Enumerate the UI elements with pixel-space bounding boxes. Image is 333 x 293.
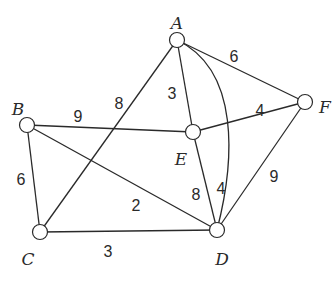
node-label-a: A <box>169 13 183 33</box>
node-f <box>298 95 313 110</box>
edge-b-c <box>27 125 40 232</box>
node-label-b: B <box>11 99 25 119</box>
node-c <box>33 225 48 240</box>
edge-a-d <box>177 40 229 230</box>
weight-a-c: 8 <box>115 95 124 112</box>
edge-a-f <box>177 40 305 102</box>
weight-b-e: 9 <box>74 108 83 125</box>
edge-weights: 83649623489 <box>17 48 279 260</box>
edge-a-c <box>40 40 177 232</box>
node-label-c: C <box>21 249 34 269</box>
weight-b-d: 2 <box>132 197 141 214</box>
node-d <box>210 223 225 238</box>
node-label-e: E <box>174 149 188 169</box>
graph-nodes <box>20 33 313 240</box>
graph-edges <box>27 40 305 232</box>
node-a <box>170 33 185 48</box>
edge-f-d <box>217 102 305 230</box>
weighted-graph-diagram: 83649623489 ABCDEF <box>0 0 333 293</box>
weight-c-d: 3 <box>104 243 113 260</box>
weight-b-c: 6 <box>17 171 26 188</box>
edge-b-d <box>27 125 217 230</box>
edge-b-e <box>27 125 193 132</box>
node-b <box>20 118 35 133</box>
edge-a-e <box>177 40 193 132</box>
weight-a-e: 3 <box>168 85 177 102</box>
edge-e-d <box>193 132 217 230</box>
weight-a-f: 6 <box>230 48 239 65</box>
node-label-f: F <box>318 97 332 117</box>
weight-e-f: 4 <box>256 102 265 119</box>
node-e <box>186 125 201 140</box>
edge-c-d <box>40 230 217 232</box>
weight-e-d: 8 <box>192 186 201 203</box>
node-label-d: D <box>214 249 229 269</box>
weight-f-d: 9 <box>270 168 279 185</box>
weight-a-d: 4 <box>217 180 226 197</box>
